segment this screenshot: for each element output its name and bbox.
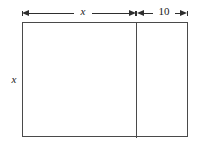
label-height-x: x: [9, 74, 19, 85]
arrow-head-right-ten-icon: [180, 10, 187, 16]
dimension-line-x: [26, 13, 76, 14]
label-width-ten: 10: [153, 6, 175, 17]
geometry-figure: x 10 x: [0, 0, 207, 149]
label-width-x: x: [74, 6, 92, 17]
outer-rectangle: [22, 22, 188, 137]
interior-divider-line: [136, 22, 137, 138]
dimension-end-tick-right: [187, 11, 188, 16]
dimension-line-x-second: [90, 13, 132, 14]
